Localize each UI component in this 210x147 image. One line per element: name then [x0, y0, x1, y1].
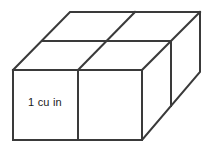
- unit-cube-label: 1 cu in: [16, 96, 74, 109]
- rectangular-prism-diagram: [0, 0, 210, 147]
- figure-container: 1 cu in: [0, 0, 210, 147]
